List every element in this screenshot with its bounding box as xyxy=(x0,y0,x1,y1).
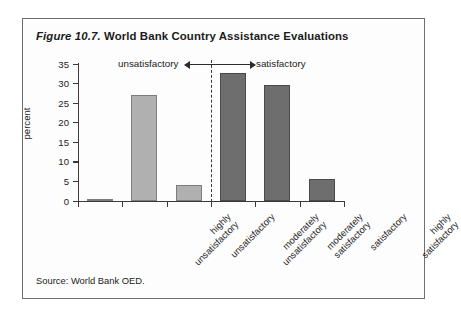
x-tick-1 xyxy=(122,202,123,207)
y-tick-label-20: 20 xyxy=(47,117,69,128)
figure-number: Figure 10.7. xyxy=(36,30,101,42)
y-tick-label-5: 5 xyxy=(47,176,69,187)
y-tick-label-0: 0 xyxy=(47,196,69,207)
bar-highly-unsatisfactory xyxy=(87,199,113,201)
bar-highly-satisfactory xyxy=(309,179,335,201)
annotation-unsatisfactory-label: unsatisfactory xyxy=(118,58,178,69)
y-tick-label-10: 10 xyxy=(47,156,69,167)
arrow-left-icon xyxy=(184,61,190,69)
annotation-satisfactory-label: satisfactory xyxy=(256,58,306,69)
x-tick-3 xyxy=(211,202,212,207)
x-tick-2 xyxy=(167,202,168,207)
source-note: Source: World Bank OED. xyxy=(36,275,145,286)
x-tick-0 xyxy=(78,202,79,207)
figure-title-text: World Bank Country Assistance Evaluation… xyxy=(101,30,349,42)
bar-moderately-satisfactory xyxy=(220,73,246,201)
x-tick-6 xyxy=(344,202,345,207)
y-tick-label-35: 35 xyxy=(47,59,69,70)
y-axis-title: percent xyxy=(21,92,32,156)
y-tick-label-30: 30 xyxy=(47,78,69,89)
y-tick-label-25: 25 xyxy=(47,98,69,109)
bar-unsatisfactory xyxy=(131,95,157,201)
bar-moderately-unsatisfactory xyxy=(176,185,202,201)
y-tick-label-15: 15 xyxy=(47,137,69,148)
x-tick-4 xyxy=(255,202,256,207)
x-tick-5 xyxy=(300,202,301,207)
figure-title: Figure 10.7. World Bank Country Assistan… xyxy=(36,30,416,42)
bar-satisfactory xyxy=(264,85,290,201)
dashed-divider xyxy=(211,60,212,202)
annotation-right-arrow-line xyxy=(216,64,254,65)
